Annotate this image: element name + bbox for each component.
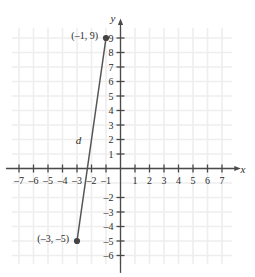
grid-lines <box>12 28 232 264</box>
y-tick-label: 5 <box>109 91 114 102</box>
x-axis-label: x <box>240 163 246 175</box>
y-axis-label: y <box>110 12 116 24</box>
x-tick-label: 6 <box>205 175 210 186</box>
y-tick-label: –4 <box>103 221 114 232</box>
y-tick-label: 1 <box>109 149 114 160</box>
y-tick-label: 3 <box>109 120 114 131</box>
x-tick-label: 5 <box>191 175 196 186</box>
x-tick-label: –4 <box>57 175 68 186</box>
y-tick-label: 7 <box>109 62 114 73</box>
x-tick-label: 3 <box>162 175 167 186</box>
x-tick-label: –1 <box>100 175 111 186</box>
point-lower <box>74 238 80 244</box>
x-tick-label: 7 <box>220 175 225 186</box>
point-upper <box>103 35 109 41</box>
y-tick-label: –3 <box>103 207 114 218</box>
y-tick-label: 9 <box>109 33 114 44</box>
x-tick-label: –5 <box>42 175 53 186</box>
point-upper-label: (–1, 9) <box>71 30 98 42</box>
y-tick-label: –2 <box>103 192 114 203</box>
y-tick-label: 8 <box>109 47 114 58</box>
x-tick-label: 1 <box>133 175 138 186</box>
y-tick-label: –6 <box>103 250 114 261</box>
point-lower-label: (–3, –5) <box>37 233 69 245</box>
y-tick-label: –5 <box>103 236 114 247</box>
x-tick-label: –7 <box>13 175 24 186</box>
y-axis-arrowhead <box>118 18 123 25</box>
cartesian-graph: –7–6–5–4–3–2–11234567987654321–2–3–4–5–6… <box>0 0 255 277</box>
coordinate-plane-figure: –7–6–5–4–3–2–11234567987654321–2–3–4–5–6… <box>0 0 255 277</box>
y-tick-label: 2 <box>109 134 114 145</box>
x-tick-label: –6 <box>28 175 39 186</box>
x-tick-label: –2 <box>86 175 97 186</box>
segment-length-label: d <box>76 134 82 146</box>
x-tick-label: 4 <box>176 175 181 186</box>
y-tick-label: 4 <box>109 105 114 116</box>
x-tick-label: –3 <box>71 175 82 186</box>
x-tick-label: 2 <box>147 175 152 186</box>
y-tick-label: 6 <box>109 76 114 87</box>
